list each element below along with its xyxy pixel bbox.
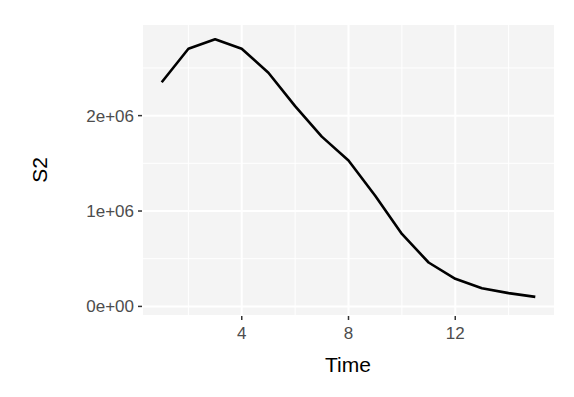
y-axis: 0e+001e+062e+06 [86, 107, 142, 317]
x-tick-label: 12 [446, 324, 465, 343]
y-tick-label: 1e+06 [86, 202, 134, 221]
y-tick-label: 2e+06 [86, 107, 134, 126]
x-axis-title: Time [325, 353, 371, 376]
x-tick-label: 4 [237, 324, 246, 343]
y-tick-label: 0e+00 [86, 297, 134, 316]
y-axis-title: S2 [28, 157, 51, 183]
line-chart: 0e+001e+062e+06 4812 Time S2 [0, 0, 574, 397]
x-tick-label: 8 [344, 324, 353, 343]
x-axis: 4812 [237, 316, 465, 343]
